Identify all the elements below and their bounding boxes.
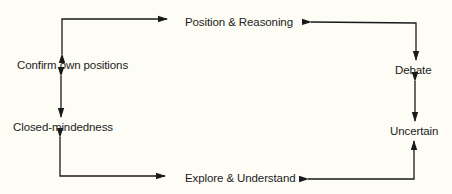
node-closed-mindedness: Closed-mindedness <box>13 120 113 134</box>
arrow-closed-to-explore <box>60 137 165 176</box>
node-debate: Debate <box>395 63 431 77</box>
node-uncertain: Uncertain <box>390 124 438 138</box>
arrow-explore-to-uncertain <box>308 141 414 179</box>
node-confirm-own-positions: Confirm own positions <box>17 58 128 72</box>
node-position-reasoning: Position & Reasoning <box>185 15 293 29</box>
arrow-confirm-to-position <box>62 19 167 54</box>
node-explore-understand: Explore & Understand <box>185 171 296 185</box>
diagram-canvas <box>0 0 452 194</box>
arrow-position-to-debate <box>311 22 416 60</box>
